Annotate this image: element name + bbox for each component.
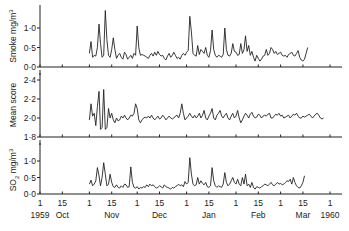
top-y-tick-label: 1·0 <box>24 23 37 33</box>
x-month-label: 1959 <box>31 210 50 220</box>
middle-series-line <box>89 90 323 130</box>
x-month-label: Mar <box>296 210 311 220</box>
x-month-label: 1960 <box>321 210 340 220</box>
data-lines <box>89 11 323 190</box>
x-tick-number: 15 <box>107 198 117 208</box>
top-series-line <box>89 11 307 62</box>
x-month-label: Jan <box>202 210 216 220</box>
x-month-label: Oct <box>56 210 70 220</box>
x-tick-number: 15 <box>155 198 165 208</box>
bottom-y-tick-label: 0·0 <box>24 189 37 199</box>
x-tick-number: 1 <box>87 198 92 208</box>
x-month-label: Nov <box>104 210 120 220</box>
top-y-tick-label: 0·0 <box>24 62 37 72</box>
bottom-series-line <box>89 158 304 189</box>
so2-y-label: SO2 mg/m3 <box>8 148 20 191</box>
top-y-tick-label: 0·5 <box>24 43 37 53</box>
bottom-y-tick-label: 1·0 <box>24 156 37 166</box>
x-tick-number: 15 <box>58 198 68 208</box>
x-tick-number: 1 <box>184 198 189 208</box>
mean-score-y-label: Mean score <box>8 83 18 128</box>
middle-y-tick-label: 2·0 <box>24 113 37 123</box>
smoke-y-label: Smoke mg/m3 <box>8 9 18 63</box>
x-tick-number: 15 <box>298 198 308 208</box>
x-tick-number: 1 <box>234 198 239 208</box>
bottom-y-tick-label: 0·5 <box>24 173 37 183</box>
x-tick-number: 1 <box>38 198 43 208</box>
middle-y-tick-label: 1·8 <box>24 132 37 142</box>
middle-y-tick-label: 2·2 <box>24 94 37 104</box>
x-month-label: Dec <box>152 210 168 220</box>
chart-figure: 1·00·50·02·42·22·01·81·00·50·0Smoke mg/m… <box>0 0 349 231</box>
x-tick-number: 15 <box>204 198 214 208</box>
middle-y-tick-label: 2·4 <box>24 75 37 85</box>
x-tick-number: 1 <box>135 198 140 208</box>
x-tick-number: 1 <box>278 198 283 208</box>
x-tick-number: 15 <box>254 198 264 208</box>
x-tick-number: 1 <box>328 198 333 208</box>
x-month-label: Feb <box>251 210 266 220</box>
